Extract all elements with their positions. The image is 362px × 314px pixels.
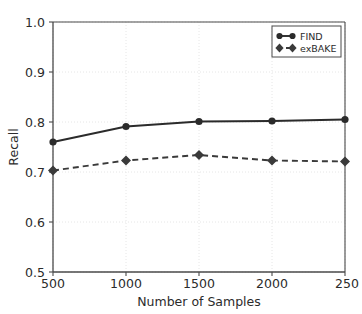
xtick-label-500: 500 <box>41 276 65 291</box>
x-axis-title: Number of Samples <box>137 294 261 309</box>
xtick-label-1500: 1500 <box>183 276 215 291</box>
xtick-label-2500: 250 <box>335 276 359 291</box>
find-point-2000 <box>268 117 275 124</box>
find-point-500 <box>49 138 56 145</box>
ytick-label-0.9: 0.9 <box>25 65 45 80</box>
legend[interactable]: FIND exBAKE <box>272 26 341 57</box>
xtick-label-2000: 2000 <box>256 276 288 291</box>
legend-label-exbake: exBAKE <box>300 43 337 54</box>
legend-marker-find-right <box>289 33 295 39</box>
ytick-label-0.8: 0.8 <box>25 115 45 130</box>
find-point-1000 <box>122 123 129 130</box>
ytick-label-1.0: 1.0 <box>25 15 45 30</box>
legend-label-find: FIND <box>300 31 323 42</box>
chart-figure: 1.0 0.9 0.8 0.7 0.6 0.5 500 1000 1500 20… <box>0 0 362 314</box>
legend-marker-find-left <box>276 33 282 39</box>
ytick-label-0.7: 0.7 <box>25 165 45 180</box>
y-axis-title: Recall <box>6 128 21 165</box>
recall-vs-samples-line-chart: 1.0 0.9 0.8 0.7 0.6 0.5 500 1000 1500 20… <box>0 0 362 314</box>
xtick-label-1000: 1000 <box>110 276 142 291</box>
ytick-label-0.6: 0.6 <box>25 215 45 230</box>
find-point-1500 <box>195 118 202 125</box>
find-point-2500 <box>341 116 348 123</box>
